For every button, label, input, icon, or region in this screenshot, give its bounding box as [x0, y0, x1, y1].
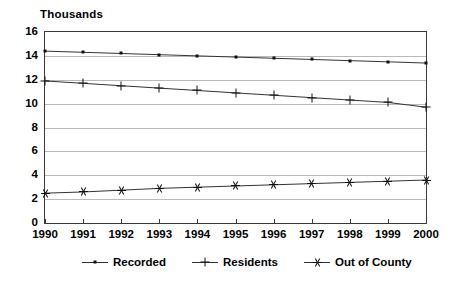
x-tick-label: 1998	[330, 228, 370, 240]
data-point-marker	[120, 52, 123, 55]
legend-label: Recorded	[113, 256, 166, 268]
legend-item-recorded[interactable]: Recorded	[82, 256, 166, 268]
x-axis-tick	[45, 219, 46, 223]
data-point-marker	[422, 103, 431, 112]
data-point-marker	[196, 54, 199, 57]
x-tick-label: 1993	[139, 228, 179, 240]
data-point-marker	[41, 189, 50, 198]
y-tick-label: 14	[4, 49, 38, 61]
data-point-marker	[193, 86, 202, 95]
x-tick-label: 1991	[63, 228, 103, 240]
x-tick-label: 2000	[406, 228, 446, 240]
data-point-marker	[269, 91, 278, 100]
x-tick-label: 1992	[101, 228, 141, 240]
data-point-marker	[234, 56, 237, 59]
y-tick-label: 6	[4, 144, 38, 156]
data-point-marker	[386, 60, 389, 63]
data-point-marker	[425, 62, 428, 65]
legend-marker-icon	[313, 258, 322, 267]
legend-marker-icon	[201, 258, 210, 267]
data-point-marker	[155, 184, 164, 193]
legend-item-out-of-county[interactable]: Out of County	[304, 256, 412, 268]
data-point-marker	[383, 98, 392, 107]
data-point-marker	[44, 50, 47, 53]
data-point-marker	[193, 183, 202, 192]
legend-marker-icon	[94, 261, 97, 264]
data-point-marker	[345, 96, 354, 105]
data-point-marker	[345, 178, 354, 187]
y-tick-label: 2	[4, 192, 38, 204]
data-point-marker	[82, 51, 85, 54]
data-point-marker	[272, 57, 275, 60]
data-point-marker	[117, 81, 126, 90]
data-point-marker	[79, 79, 88, 88]
x-axis-tick	[197, 219, 198, 223]
x-tick-label: 1995	[216, 228, 256, 240]
x-axis-tick	[121, 219, 122, 223]
plot-area	[44, 31, 427, 224]
x-tick-label: 1994	[177, 228, 217, 240]
x-axis-tick	[83, 219, 84, 223]
data-point-marker	[155, 84, 164, 93]
x-axis-tick	[388, 219, 389, 223]
y-tick-label: 0	[4, 216, 38, 228]
x-axis-tick	[236, 219, 237, 223]
legend-label: Residents	[223, 256, 278, 268]
y-axis-title: Thousands	[40, 8, 103, 20]
data-point-marker	[231, 88, 240, 97]
legend-item-residents[interactable]: Residents	[192, 256, 278, 268]
y-tick-label: 4	[4, 168, 38, 180]
x-axis-tick	[312, 219, 313, 223]
data-point-marker	[269, 180, 278, 189]
legend-swatch	[192, 257, 218, 267]
data-point-marker	[422, 176, 431, 185]
y-tick-label: 12	[4, 73, 38, 85]
x-axis-tick	[426, 219, 427, 223]
x-axis-tick	[159, 219, 160, 223]
legend-label: Out of County	[335, 256, 412, 268]
data-point-marker	[307, 93, 316, 102]
legend-swatch	[304, 257, 330, 267]
y-tick-label: 10	[4, 97, 38, 109]
data-point-marker	[117, 186, 126, 195]
x-tick-label: 1996	[254, 228, 294, 240]
data-point-marker	[231, 181, 240, 190]
data-point-marker	[41, 76, 50, 85]
y-tick-label: 8	[4, 121, 38, 133]
chart-container: Thousands 0246810121416 1990199119921993…	[0, 0, 461, 292]
y-tick-label: 16	[4, 25, 38, 37]
x-axis-tick	[350, 219, 351, 223]
x-tick-label: 1997	[292, 228, 332, 240]
legend-swatch	[82, 257, 108, 267]
data-point-marker	[158, 53, 161, 56]
data-point-marker	[383, 177, 392, 186]
data-point-marker	[307, 179, 316, 188]
x-tick-label: 1990	[25, 228, 65, 240]
x-tick-label: 1999	[368, 228, 408, 240]
data-point-marker	[79, 187, 88, 196]
series-markers	[45, 32, 426, 223]
data-point-marker	[348, 59, 351, 62]
chart-legend: RecordedResidentsOut of County	[82, 256, 412, 268]
data-point-marker	[310, 58, 313, 61]
x-axis-tick	[274, 219, 275, 223]
